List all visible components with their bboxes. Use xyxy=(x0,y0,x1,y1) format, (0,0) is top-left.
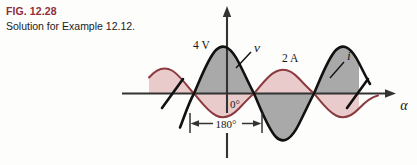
voltage-peak-label: 4 V xyxy=(193,39,210,51)
y-axis-arrowhead xyxy=(223,6,231,17)
current-peak-label: 2 A xyxy=(282,52,299,64)
waveform-svg: 4 V v 2 A i 0° 180° α xyxy=(120,0,417,165)
x-axis-label-alpha: α xyxy=(400,98,408,113)
current-symbol-label: i xyxy=(347,48,351,63)
origin-angle-label: 0° xyxy=(230,98,240,110)
waveform-plot: 4 V v 2 A i 0° 180° α xyxy=(120,0,417,165)
x-axis-arrowhead xyxy=(385,89,396,97)
dimension-arrow-right xyxy=(253,120,262,127)
dimension-label-180: 180° xyxy=(216,118,237,130)
voltage-symbol-label: v xyxy=(254,40,260,55)
dimension-arrow-left xyxy=(191,120,200,127)
figure-root: FIG. 12.28 Solution for Example 12.12. xyxy=(0,0,417,165)
